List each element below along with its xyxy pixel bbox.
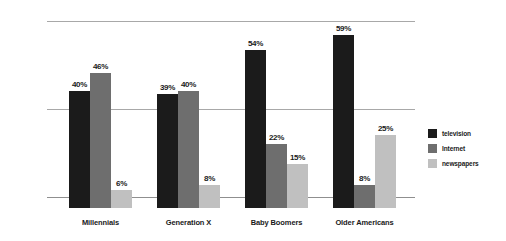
bar-television[interactable]	[157, 94, 178, 208]
category-label-older-americans: Older Americans	[311, 218, 418, 227]
legend-swatch-internet-icon	[428, 144, 437, 153]
bar-television[interactable]	[245, 50, 266, 208]
bar-value-label: 8%	[191, 174, 228, 183]
bar-newspapers[interactable]	[111, 190, 132, 208]
legend-swatch-newspapers-icon	[428, 159, 437, 168]
bar-slot-internet: 8%	[354, 12, 375, 208]
legend-label-newspapers: newspapers	[442, 160, 479, 167]
bar-slot-newspapers: 15%	[287, 12, 308, 208]
bar-value-label: 25%	[367, 124, 404, 133]
bar-internet[interactable]	[354, 185, 375, 209]
bar-newspapers[interactable]	[287, 164, 308, 208]
bar-internet[interactable]	[178, 91, 199, 208]
legend-label-internet: Internet	[442, 145, 465, 152]
plot-area: 60% 30% 0% 40% 46% 6	[47, 12, 415, 208]
bar-newspapers[interactable]	[199, 185, 220, 209]
legend-label-television: television	[442, 130, 471, 137]
legend-item-newspapers[interactable]: newspapers	[428, 156, 479, 171]
bar-group-millennials: 40% 46% 6% Millennials	[69, 12, 132, 208]
bar-groups: 40% 46% 6% Millennials	[47, 12, 415, 208]
bar-television[interactable]	[69, 91, 90, 208]
bar-newspapers[interactable]	[375, 135, 396, 208]
bar-group-older-americans: 59% 8% 25% Older Americans	[333, 12, 396, 208]
legend-swatch-television-icon	[428, 129, 437, 138]
bar-slot-television: 54%	[245, 12, 266, 208]
bar-slot-television: 40%	[69, 12, 90, 208]
bar-slot-television: 39%	[157, 12, 178, 208]
legend-item-internet[interactable]: Internet	[428, 141, 479, 156]
bar-chart: 60% 30% 0% 40% 46% 6	[0, 0, 506, 241]
bar-group-generation-x: 39% 40% 8% Generation X	[157, 12, 220, 208]
bar-slot-newspapers: 6%	[111, 12, 132, 208]
bar-value-label: 6%	[103, 179, 140, 188]
bar-group-baby-boomers: 54% 22% 15% Baby Boomers	[245, 12, 308, 208]
bar-slot-newspapers: 8%	[199, 12, 220, 208]
legend-item-television[interactable]: television	[428, 126, 479, 141]
bar-value-label: 15%	[279, 153, 316, 162]
chart-legend: television Internet newspapers	[428, 126, 479, 171]
bar-slot-newspapers: 25%	[375, 12, 396, 208]
bar-slot-internet: 22%	[266, 12, 287, 208]
